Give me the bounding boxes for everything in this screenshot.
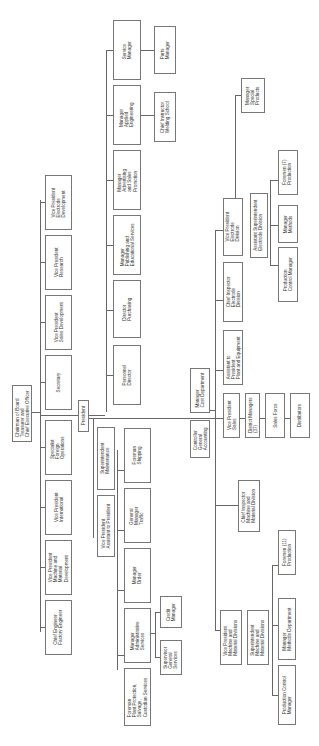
- node-vp-sales: Vice President Sales: [223, 393, 240, 438]
- connector: [270, 265, 278, 266]
- node-gm-traffic: General Manager Traffic: [124, 488, 151, 543]
- connector: [272, 565, 273, 695]
- node-vp-machine-development: Vice President Machine and Material Deve…: [45, 540, 72, 595]
- connector: [106, 310, 113, 311]
- node-director-purchasing: Director Purchasing: [113, 280, 141, 338]
- node-chief-inspector-electrode: Chief Inspector Electrode Division: [223, 262, 243, 322]
- node-chief-inspector-machine: Chief Inspector Machine and Material Div…: [238, 480, 260, 532]
- node-vp-electrode-development: Vice President Electrode Development: [45, 175, 72, 230]
- connector: [106, 375, 113, 376]
- node-secretary: Secretary: [45, 355, 72, 410]
- node-vp-machine-division: Vice President Machine and Material Divi…: [220, 610, 242, 665]
- node-credit-manager: Credit Manager: [160, 596, 182, 628]
- node-mgr-admin-services: Manager Administrative Services: [124, 608, 151, 663]
- node-district-managers: District Managers (37): [245, 393, 260, 438]
- node-mgr-methods: Manager Methods: [278, 205, 298, 243]
- node-distributors: Distributors: [290, 393, 310, 438]
- connector: [117, 590, 124, 591]
- node-prod-control-electrode: Production Control Manager: [278, 247, 298, 302]
- node-personnel-director: Personnel Director: [113, 345, 141, 405]
- connector: [270, 225, 278, 226]
- node-vp-assistant: Vice President Assistant to President: [97, 495, 115, 557]
- connector: [106, 50, 107, 412]
- node-asst-supt-electrode: Assistant Superintendent Electrode Divis…: [250, 193, 268, 258]
- connector: [215, 418, 223, 419]
- node-parts-manager: Parts Manager: [154, 26, 176, 74]
- connector: [215, 230, 216, 630]
- connector: [141, 115, 154, 116]
- node-chairman: Chairman of Board Treasurer and Chief Ex…: [12, 385, 32, 442]
- node-asst-president-plant: Assistant to President Plant and Equipme…: [223, 330, 243, 385]
- node-vp-research: Vice President Research: [45, 235, 72, 290]
- node-foreman-plant-protection: Foreman Plant Protection, Salvage, Custo…: [124, 668, 151, 726]
- node-mgr-methods-dept: Manager Methods Department: [278, 598, 296, 660]
- connector: [117, 655, 124, 656]
- connector: [93, 418, 94, 538]
- node-specialist-foreign: Specialist Foreign Operations: [45, 420, 72, 475]
- connector: [215, 370, 223, 371]
- connector: [117, 530, 124, 531]
- node-chief-engineer: Chief Engineer Factory Engineer: [45, 600, 72, 655]
- connector: [117, 470, 124, 471]
- node-vp-electrode-division: Vice President Electrode Division: [223, 198, 243, 256]
- connector: [106, 180, 113, 181]
- node-service-manager: Service Manager: [113, 20, 141, 80]
- node-mgr-advertising: Manager Advertising and Sales Promotion: [113, 150, 141, 210]
- node-supt-machine: Superintendent Machine and Material Divi…: [247, 610, 269, 665]
- node-superintendent-maintenance: Superintendent Maintenance: [97, 427, 115, 490]
- connector: [215, 300, 223, 301]
- connector: [106, 115, 113, 116]
- connector: [40, 415, 105, 416]
- connector: [215, 505, 240, 506]
- node-sales-force: Sales Force: [265, 393, 285, 438]
- connector: [141, 50, 154, 51]
- connector: [270, 180, 278, 181]
- connector: [106, 245, 113, 246]
- node-foremen-7: Foremen (7) Production: [278, 150, 298, 195]
- connector: [190, 418, 215, 419]
- node-mgr-cost-department: Manager Cost Department: [190, 368, 210, 413]
- node-vp-international: Vice President International: [45, 480, 72, 535]
- node-vp-sales-development: Vice President Sales Development: [45, 295, 72, 350]
- connector: [155, 612, 156, 657]
- connector: [270, 180, 271, 265]
- connector: [106, 50, 113, 51]
- node-supervisor-general: Supervisor General Services: [160, 640, 182, 675]
- node-foremen-11: Foremen (11) Production: [278, 530, 296, 575]
- node-mgr-special-products: Manager Special Products: [241, 78, 265, 113]
- node-foreman-shipping: Foreman Shipping: [124, 428, 151, 483]
- connector: [32, 412, 40, 413]
- node-controller: Controller General Accounting: [190, 420, 210, 458]
- node-president: President: [78, 400, 89, 432]
- connector: [215, 230, 223, 231]
- node-chief-instructor: Chief Instructor Welding School: [154, 92, 176, 142]
- connector: [117, 450, 118, 670]
- node-mgr-applied-engineering: Manager Applied Engineering: [113, 85, 141, 145]
- node-mgr-publishing: Manager Publishing and Educational Servi…: [113, 215, 141, 275]
- node-manager-order: Manager Order: [124, 548, 151, 603]
- node-prod-control-machine: Production Control Manager: [278, 665, 296, 725]
